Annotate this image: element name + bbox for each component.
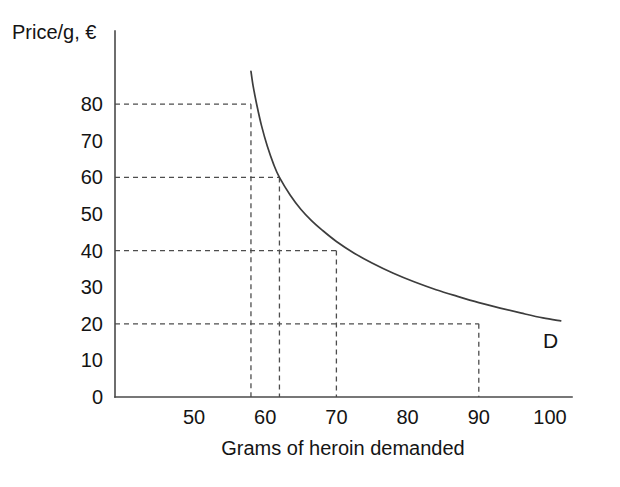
y-tick-label: 30	[81, 276, 103, 298]
plot-guides	[115, 104, 479, 397]
x-axis-title: Grams of heroin demanded	[221, 437, 464, 459]
y-tick-label: 0	[92, 386, 103, 408]
x-tick-label: 80	[396, 406, 418, 428]
demand-curve-figure: 01020304050607080 5060708090100 Price/g,…	[0, 0, 620, 487]
x-tick-label: 90	[468, 406, 490, 428]
y-tick-label: 10	[81, 349, 103, 371]
y-axis-title: Price/g, €	[12, 21, 96, 43]
x-tick-label: 70	[325, 406, 347, 428]
demand-curve-label: D	[543, 329, 558, 352]
y-tick-label: 50	[81, 203, 103, 225]
heroin-demand-chart: 01020304050607080 5060708090100 Price/g,…	[0, 0, 620, 487]
y-tick-labels: 01020304050607080	[81, 93, 103, 408]
y-tick-label: 60	[81, 166, 103, 188]
demand-curve	[251, 71, 561, 321]
y-tick-label: 20	[81, 313, 103, 335]
axes	[115, 31, 572, 397]
x-tick-label: 50	[183, 406, 205, 428]
y-tick-label: 70	[81, 130, 103, 152]
x-tick-label: 100	[533, 406, 566, 428]
y-tick-label: 80	[81, 93, 103, 115]
x-tick-label: 60	[254, 406, 276, 428]
x-tick-labels: 5060708090100	[183, 406, 567, 428]
y-tick-label: 40	[81, 240, 103, 262]
